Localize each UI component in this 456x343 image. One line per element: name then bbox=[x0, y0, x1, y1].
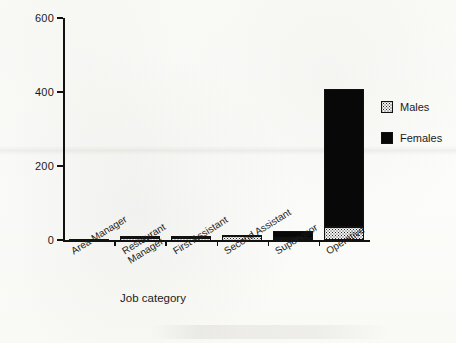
bar-operative bbox=[324, 89, 364, 240]
chart-plot-area: 0200400600 bbox=[63, 18, 370, 240]
y-tick-400 bbox=[57, 91, 63, 93]
legend-label-females: Females bbox=[400, 132, 442, 144]
scan-artifact-ghost-text bbox=[150, 325, 390, 339]
x-tick-5 bbox=[319, 240, 320, 246]
y-tick-label-600: 600 bbox=[35, 12, 54, 24]
legend-label-males: Males bbox=[400, 101, 429, 113]
x-tick-4 bbox=[268, 240, 269, 246]
y-tick-600 bbox=[57, 17, 63, 19]
y-tick-200 bbox=[57, 165, 63, 167]
y-tick-label-0: 0 bbox=[48, 234, 54, 246]
legend-item-females: Females bbox=[381, 132, 442, 144]
x-tick-3 bbox=[217, 240, 218, 246]
stipple-swatch-icon bbox=[381, 101, 393, 113]
x-tick-1 bbox=[114, 240, 115, 246]
y-tick-0 bbox=[57, 239, 63, 241]
bar-segment-females bbox=[324, 89, 364, 227]
legend-item-males: Males bbox=[381, 101, 442, 113]
x-axis-title: Job category bbox=[120, 292, 186, 304]
y-tick-label-200: 200 bbox=[35, 160, 54, 172]
y-tick-label-400: 400 bbox=[35, 86, 54, 98]
solid-black-swatch-icon bbox=[381, 132, 393, 144]
chart-legend: Males Females bbox=[381, 101, 442, 163]
y-axis-line bbox=[63, 18, 65, 240]
